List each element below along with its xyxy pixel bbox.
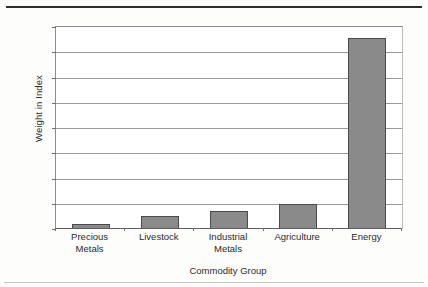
x-tick-mark [55,228,56,231]
y-tick-mark [52,52,56,53]
y-tick-mark [52,179,56,180]
x-tick-mark [124,228,125,231]
chart-page: Weight in Index 0%10%20%30%40%50%60%70%8… [0,0,428,287]
bar [279,204,317,229]
x-tick-label: Energy [332,231,401,243]
y-tick-mark [52,27,56,28]
plot-area [55,26,403,229]
y-tick-mark [52,204,56,205]
y-tick-mark [52,128,56,129]
x-tick-label: IndustrialMetals [193,231,262,254]
x-axis-line [55,228,402,229]
page-rule-bottom [4,282,424,283]
x-tick-mark [332,228,333,231]
y-tick-mark [52,153,56,154]
x-axis-title: Commodity Group [55,265,401,276]
x-tick-label: PreciousMetals [55,231,124,254]
x-tick-mark [401,228,402,231]
y-axis-title: Weight in Index [33,29,44,189]
y-tick-mark [52,78,56,79]
x-axis-ticks: PreciousMetalsLivestockIndustrialMetalsA… [55,231,401,263]
bar [210,211,248,229]
page-rule-top [6,6,422,8]
x-tick-mark [263,228,264,231]
x-tick-label: Livestock [124,231,193,243]
bar-series [56,27,402,229]
y-tick-mark [52,103,56,104]
x-tick-label: Agriculture [263,231,332,243]
x-tick-mark [193,228,194,231]
bar [348,38,386,229]
